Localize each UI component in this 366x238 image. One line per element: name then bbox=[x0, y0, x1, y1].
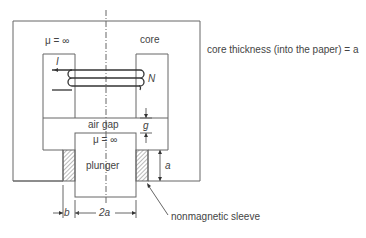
plunger-permeability-label: μ = ∞ bbox=[93, 135, 117, 145]
plunger-width-label: 2a bbox=[99, 208, 110, 218]
thickness-note: core thickness (into the paper) = a bbox=[207, 45, 358, 55]
sleeve-label: nonmagnetic sleeve bbox=[171, 212, 260, 222]
core-permeability-label: μ = ∞ bbox=[45, 36, 69, 46]
current-label: I bbox=[56, 57, 59, 67]
sleeve-right bbox=[136, 150, 148, 181]
sleeve-width-label: b bbox=[64, 208, 70, 218]
air-gap-label: air gap bbox=[88, 120, 119, 130]
plunger-label: plunger bbox=[86, 161, 119, 171]
sleeve-left bbox=[63, 150, 75, 181]
sleeve-height-label: a bbox=[165, 161, 171, 171]
turns-label: N bbox=[148, 74, 155, 84]
gap-dimension-label: g bbox=[143, 121, 149, 131]
core-label: core bbox=[140, 35, 159, 45]
